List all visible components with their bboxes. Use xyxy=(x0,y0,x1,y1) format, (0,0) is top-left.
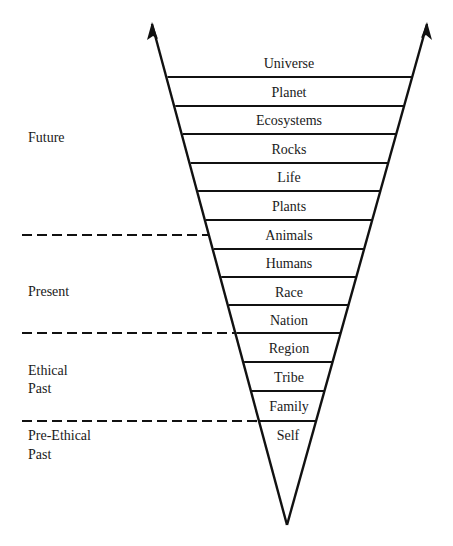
band-label: Universe xyxy=(264,56,315,71)
band-label: Rocks xyxy=(272,142,307,157)
band-label: Animals xyxy=(265,228,312,243)
band-label: Ecosystems xyxy=(256,113,322,128)
right-funnel-edge-arrow xyxy=(287,24,427,525)
band-label: Nation xyxy=(270,313,308,328)
era-separators xyxy=(22,235,259,421)
era-labels: Future Present Ethical Past Pre-Ethical … xyxy=(28,130,91,462)
era-label-ethical-past-line1: Ethical xyxy=(28,363,68,378)
band-label: Planet xyxy=(272,85,307,100)
band-label: Family xyxy=(269,399,309,414)
band-label: Region xyxy=(269,341,309,356)
band-label: Plants xyxy=(272,199,306,214)
era-label-future: Future xyxy=(28,130,65,145)
era-label-preethical-past-line2: Past xyxy=(28,447,51,462)
ethics-expansion-diagram: Universe Planet Ecosystems Rocks Life Pl… xyxy=(0,0,453,546)
era-label-preethical-past-line1: Pre-Ethical xyxy=(28,428,91,443)
left-funnel-edge-arrow xyxy=(152,24,287,525)
band-label: Humans xyxy=(266,256,313,271)
band-label: Life xyxy=(277,170,300,185)
band-label: Race xyxy=(275,285,303,300)
era-label-ethical-past-line2: Past xyxy=(28,381,51,396)
era-label-present: Present xyxy=(28,284,69,299)
band-label: Self xyxy=(277,428,300,443)
band-label: Tribe xyxy=(274,370,304,385)
left-arrowhead-icon xyxy=(147,22,158,40)
